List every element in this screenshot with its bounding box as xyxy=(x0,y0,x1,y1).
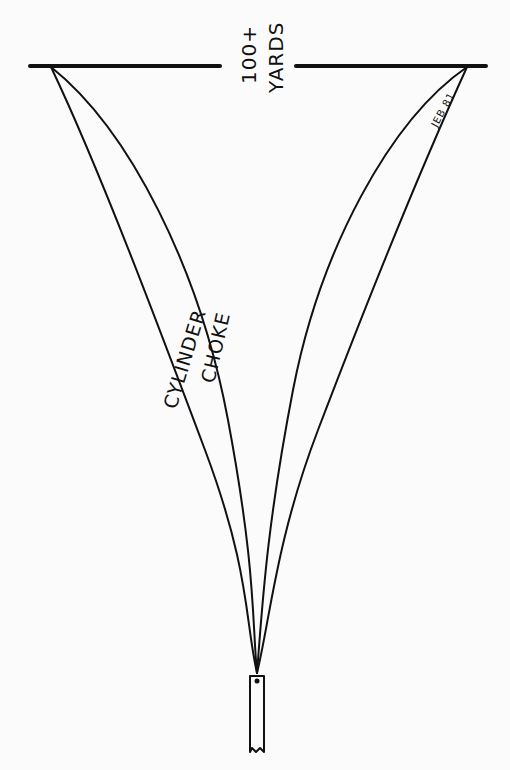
cylinder-spread-curve-right xyxy=(257,67,467,673)
range-label-distance: 100+ xyxy=(237,25,261,84)
shotgun-barrel-icon xyxy=(250,676,264,752)
choke-spread-curve-right xyxy=(257,67,467,673)
range-label: 100+ YARDS xyxy=(237,22,288,94)
shot-pattern-diagram: 100+ YARDS CYLINDER CHOKE JEB 81 xyxy=(0,0,510,770)
choke-spread-curve-left xyxy=(51,67,257,673)
range-label-unit: YARDS xyxy=(264,22,288,94)
barrel-muzzle-dot xyxy=(255,679,260,684)
barrel-outline xyxy=(250,676,264,752)
cylinder-spread-curve-left xyxy=(51,67,257,673)
